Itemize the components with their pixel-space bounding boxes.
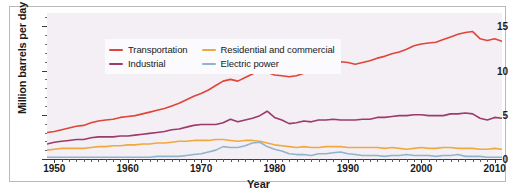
x-tick-minor <box>186 159 187 162</box>
legend-item[interactable]: Residential and commercial <box>202 43 335 56</box>
x-tick-minor <box>253 159 254 162</box>
x-tick-minor <box>326 159 327 162</box>
y-tick-label: 5 <box>502 109 508 120</box>
x-tick-minor <box>289 159 290 162</box>
x-tick-minor <box>164 159 165 162</box>
x-tick-minor <box>76 159 77 162</box>
x-tick-minor <box>297 159 298 162</box>
x-tick-minor <box>370 159 371 162</box>
x-tick-minor <box>245 159 246 162</box>
x-tick-minor <box>172 159 173 162</box>
x-tick-minor <box>319 159 320 162</box>
x-tick-minor <box>120 159 121 162</box>
x-tick-minor <box>84 159 85 162</box>
legend-swatch-icon <box>109 49 123 51</box>
legend-item[interactable]: Industrial <box>109 57 188 70</box>
x-tick-minor <box>216 159 217 162</box>
x-tick-minor <box>392 159 393 162</box>
legend-swatch-icon <box>202 49 216 51</box>
x-tick-label: 1960 <box>117 163 139 174</box>
x-tick-minor <box>135 159 136 162</box>
y-tick-label: 0 <box>502 154 508 165</box>
x-tick-label: 1990 <box>337 163 359 174</box>
x-tick-minor <box>341 159 342 162</box>
x-tick-minor <box>487 159 488 162</box>
x-tick-minor <box>91 159 92 162</box>
x-tick-label: 1970 <box>190 163 212 174</box>
x-tick-minor <box>194 159 195 162</box>
x-tick-minor <box>473 159 474 162</box>
x-tick-minor <box>480 159 481 162</box>
plot-area: TransportationResidential and commercial… <box>47 13 502 159</box>
x-tick-minor <box>363 159 364 162</box>
x-tick-label: 2010 <box>484 163 506 174</box>
x-tick-label: 2000 <box>410 163 432 174</box>
series-line <box>47 111 502 144</box>
x-tick-minor <box>451 159 452 162</box>
y-tick-label: 15 <box>497 21 508 32</box>
x-tick-minor <box>385 159 386 162</box>
x-tick-minor <box>458 159 459 162</box>
x-tick-minor <box>62 159 63 162</box>
x-tick-minor <box>231 159 232 162</box>
x-tick-minor <box>414 159 415 162</box>
legend-label: Industrial <box>128 58 166 69</box>
x-tick-minor <box>209 159 210 162</box>
x-tick-minor <box>98 159 99 162</box>
legend-label: Electric power <box>221 58 279 69</box>
x-tick-minor <box>407 159 408 162</box>
x-tick-minor <box>399 159 400 162</box>
x-tick-minor <box>436 159 437 162</box>
x-tick-minor <box>267 159 268 162</box>
series-lines <box>47 13 502 159</box>
chart-legend: TransportationResidential and commercial… <box>105 39 341 74</box>
x-tick-minor <box>377 159 378 162</box>
x-tick-minor <box>429 159 430 162</box>
x-axis: 1950196019701980199020002010 <box>47 159 502 173</box>
legend-swatch-icon <box>202 63 216 65</box>
x-tick-label: 1980 <box>263 163 285 174</box>
x-tick-minor <box>106 159 107 162</box>
legend-item[interactable]: Transportation <box>109 43 188 56</box>
x-tick-minor <box>333 159 334 162</box>
x-tick-minor <box>282 159 283 162</box>
x-tick-minor <box>179 159 180 162</box>
x-tick-minor <box>69 159 70 162</box>
plot-background <box>47 13 502 159</box>
x-axis-label: Year <box>0 178 517 190</box>
legend-item[interactable]: Electric power <box>202 57 335 70</box>
legend-label: Residential and commercial <box>221 44 335 55</box>
x-tick-minor <box>142 159 143 162</box>
x-tick-minor <box>223 159 224 162</box>
x-tick-label: 1950 <box>43 163 65 174</box>
x-tick-minor <box>311 159 312 162</box>
x-tick-minor <box>157 159 158 162</box>
legend-label: Transportation <box>128 44 188 55</box>
x-tick-minor <box>304 159 305 162</box>
y-axis-label: Million barrels per day <box>16 0 28 128</box>
x-tick-minor <box>238 159 239 162</box>
x-tick-minor <box>260 159 261 162</box>
x-tick-minor <box>355 159 356 162</box>
y-tick-label: 10 <box>497 65 508 76</box>
chart-figure: Million barrels per day TransportationRe… <box>0 0 517 196</box>
legend-swatch-icon <box>109 63 123 65</box>
x-tick-minor <box>150 159 151 162</box>
x-tick-minor <box>465 159 466 162</box>
x-tick-minor <box>443 159 444 162</box>
x-tick-minor <box>113 159 114 162</box>
